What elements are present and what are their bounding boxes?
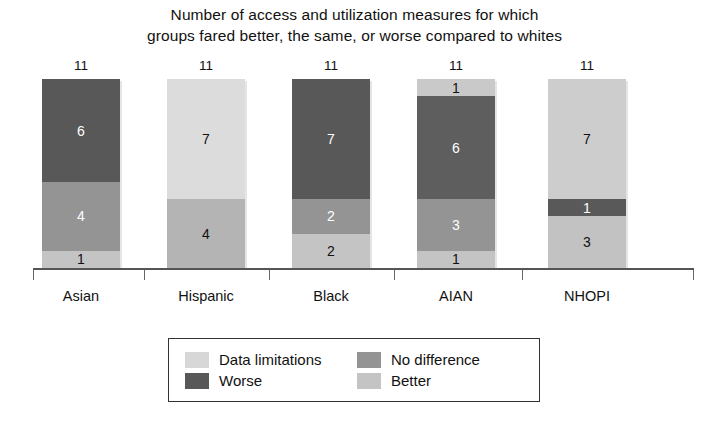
bar-total-label: 11 (548, 58, 626, 73)
bar-stack-nhopi[interactable]: 713 (548, 79, 626, 268)
bar-group: 1174 (167, 79, 245, 268)
bar-stack-black[interactable]: 722 (292, 79, 370, 268)
bar-segment[interactable]: 7 (548, 79, 626, 199)
x-axis-tick (269, 270, 270, 280)
bar-segment-value: 2 (327, 209, 335, 223)
bar-segment[interactable]: 4 (42, 182, 120, 251)
bar-segment[interactable]: 2 (292, 199, 370, 233)
x-axis-tick (394, 270, 395, 280)
bar-total-label: 11 (417, 58, 495, 73)
bar-segment[interactable]: 3 (417, 199, 495, 251)
legend-item[interactable]: Better (357, 372, 529, 389)
legend-swatch (185, 352, 209, 368)
bar-segment-value: 7 (202, 132, 210, 146)
bar-segment[interactable]: 6 (417, 96, 495, 199)
bar-stack-asian[interactable]: 641 (42, 79, 120, 268)
bar-segment-value: 1 (77, 252, 85, 266)
bar-segment-value: 1 (583, 201, 591, 215)
category-label-hispanic: Hispanic (145, 288, 267, 304)
bar-segment[interactable]: 7 (167, 79, 245, 199)
bar-group: 11713 (548, 79, 626, 268)
bar-group: 111631 (417, 79, 495, 268)
legend-item[interactable]: Worse (185, 372, 357, 389)
x-axis-line (33, 268, 694, 270)
bar-group: 11641 (42, 79, 120, 268)
bar-stack-aian[interactable]: 1631 (417, 79, 495, 268)
bar-segment[interactable]: 1 (42, 251, 120, 268)
bar-total-label: 11 (42, 58, 120, 73)
bar-segment[interactable]: 2 (292, 234, 370, 268)
bar-segment[interactable]: 7 (292, 79, 370, 199)
bar-segment-value: 3 (583, 235, 591, 249)
category-label-asian: Asian (20, 288, 142, 304)
category-label-nhopi: NHOPI (526, 288, 648, 304)
bar-segment-value: 4 (202, 227, 210, 241)
bar-segment-value: 6 (452, 141, 460, 155)
bar-segment-value: 3 (452, 218, 460, 232)
bar-segment[interactable]: 1 (417, 79, 495, 96)
bar-stack-hispanic[interactable]: 74 (167, 79, 245, 268)
bar-segment-value: 4 (77, 209, 85, 223)
legend-label: No difference (391, 351, 480, 368)
legend-swatch (357, 373, 381, 389)
bar-segment-value: 1 (452, 252, 460, 266)
legend-item[interactable]: No difference (357, 351, 529, 368)
legend-swatch (185, 373, 209, 389)
bar-segment-value: 1 (452, 81, 460, 95)
legend-label: Better (391, 372, 431, 389)
category-label-black: Black (270, 288, 392, 304)
bar-segment-value: 7 (327, 132, 335, 146)
bar-total-label: 11 (292, 58, 370, 73)
bar-segment-value: 6 (77, 124, 85, 138)
x-axis-tick (33, 270, 34, 280)
x-axis-tick (522, 270, 523, 280)
bar-segment[interactable]: 6 (42, 79, 120, 182)
bar-segment[interactable]: 1 (548, 199, 626, 216)
legend-item[interactable]: Data limitations (185, 351, 357, 368)
bar-segment[interactable]: 3 (548, 216, 626, 268)
legend: Data limitationsNo differenceWorseBetter (168, 338, 540, 402)
x-axis-tick (693, 270, 694, 280)
bar-segment-value: 2 (327, 244, 335, 258)
bar-total-label: 11 (167, 58, 245, 73)
legend-label: Data limitations (219, 351, 322, 368)
legend-swatch (357, 352, 381, 368)
bar-segment[interactable]: 4 (167, 199, 245, 268)
x-axis-tick (144, 270, 145, 280)
bar-segment-value: 7 (583, 132, 591, 146)
bar-group: 11722 (292, 79, 370, 268)
category-label-aian: AIAN (395, 288, 517, 304)
bar-segment[interactable]: 1 (417, 251, 495, 268)
legend-label: Worse (219, 372, 262, 389)
